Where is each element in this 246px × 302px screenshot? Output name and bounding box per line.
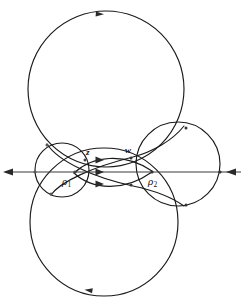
- node-right-axis: [218, 170, 221, 173]
- node-upper-right: [185, 127, 188, 130]
- node-lower-mid: [130, 184, 133, 187]
- label-rho2-subscript: 2: [153, 180, 157, 189]
- upper-large-circle-direction-arrow: [96, 12, 104, 17]
- right-medium-circle: [136, 122, 220, 206]
- flow-arrow-upper: [96, 157, 105, 164]
- label-w: w: [125, 146, 131, 155]
- node-rho2: [150, 170, 153, 173]
- node-w: [130, 157, 133, 160]
- axis-right-arrowhead: [226, 168, 236, 175]
- label-rho1-subscript: 1: [67, 180, 71, 189]
- lower-large-circle-direction-arrow: [85, 288, 93, 293]
- lower-large-circle: [30, 148, 178, 296]
- lower-lens-arc: [74, 172, 152, 186]
- label-rho1: ρ1: [62, 176, 71, 188]
- geometry-diagram: [0, 0, 246, 302]
- upper-large-circle: [28, 11, 184, 167]
- figure-canvas: z w ρ1 ρ2: [0, 0, 246, 302]
- flow-arrow-middle: [96, 169, 105, 176]
- intersection-marks: [34, 127, 222, 207]
- node-rho1: [73, 170, 76, 173]
- label-z: z: [86, 148, 90, 157]
- node-left-axis: [34, 171, 37, 174]
- node-upper-left: [46, 144, 49, 147]
- label-rho2: ρ2: [148, 176, 157, 188]
- left-small-circle: [35, 143, 89, 197]
- node-lower-right: [185, 204, 188, 207]
- node-z: [84, 159, 87, 162]
- axis-left-arrowhead: [3, 168, 13, 175]
- node-lower-left: [50, 193, 53, 196]
